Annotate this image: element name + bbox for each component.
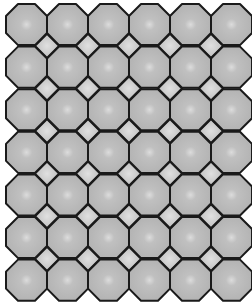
- octagon-tile: [6, 217, 47, 258]
- octagon-tile: [211, 132, 252, 173]
- octagon-tile: [47, 4, 88, 45]
- octagon-tile: [170, 260, 211, 301]
- octagon-tile: [88, 4, 129, 45]
- octagon-tile: [129, 174, 170, 215]
- octagon-tile: [170, 4, 211, 45]
- octagon-tile: [6, 260, 47, 301]
- octagon-tile: [47, 132, 88, 173]
- octagon-tile: [6, 132, 47, 173]
- octagon-tile: [129, 47, 170, 88]
- octagon-tile: [47, 47, 88, 88]
- octagon-tile: [47, 89, 88, 130]
- octagon-tile: [47, 217, 88, 258]
- octagon-tile: [211, 174, 252, 215]
- octagon-tile: [88, 260, 129, 301]
- octagon-tile: [211, 89, 252, 130]
- octagon-tile: [170, 174, 211, 215]
- octagon-tile: [211, 260, 252, 301]
- octagon-tile: [170, 47, 211, 88]
- octagon-tile: [129, 260, 170, 301]
- octagon-tile: [129, 89, 170, 130]
- octagon-square-tiling: [0, 0, 252, 307]
- octagon-tile: [129, 132, 170, 173]
- octagon-tile: [211, 47, 252, 88]
- octagon-tile: [6, 4, 47, 45]
- octagon-tile: [211, 4, 252, 45]
- octagon-tile: [129, 217, 170, 258]
- octagon-tile: [129, 4, 170, 45]
- octagon-tile: [170, 89, 211, 130]
- octagon-tile: [88, 89, 129, 130]
- octagon-tile: [170, 217, 211, 258]
- octagon-tile: [88, 174, 129, 215]
- octagon-tile: [88, 217, 129, 258]
- octagon-tile: [6, 89, 47, 130]
- octagon-tile: [6, 47, 47, 88]
- octagon-tile: [170, 132, 211, 173]
- octagon-tile: [6, 174, 47, 215]
- octagon-tile: [47, 260, 88, 301]
- octagon-tile: [88, 132, 129, 173]
- octagon-tile: [88, 47, 129, 88]
- octagon-tile: [47, 174, 88, 215]
- octagon-tile: [211, 217, 252, 258]
